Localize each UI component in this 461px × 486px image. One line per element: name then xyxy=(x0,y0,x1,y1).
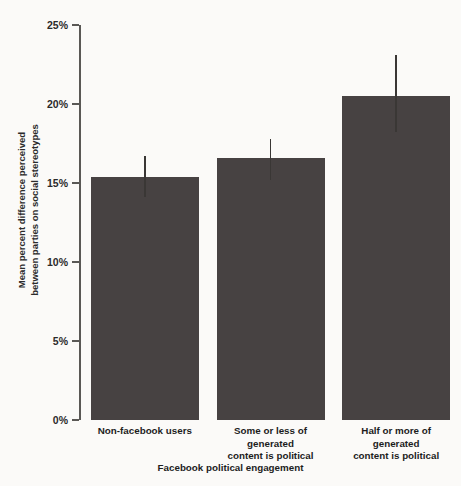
y-axis-tick-label: 25% xyxy=(28,19,68,31)
error-bar xyxy=(395,55,397,132)
plot-area xyxy=(79,25,461,420)
y-axis-title-line2: between parties on social stereotypes xyxy=(28,124,41,296)
y-axis-tick-label: 5% xyxy=(28,335,68,347)
category-label-line: Non-facebook users xyxy=(82,425,208,438)
x-axis-title: Facebook political engagement xyxy=(0,462,461,473)
bar-chart-figure: Mean percent difference perceived betwee… xyxy=(0,0,461,486)
x-axis-category-label: Some or less ofgeneratedcontent is polit… xyxy=(208,425,334,463)
category-label-line: generated xyxy=(208,438,334,451)
y-axis-tick xyxy=(72,103,79,105)
y-axis-tick-label: 20% xyxy=(28,98,68,110)
bar xyxy=(91,177,199,420)
error-bar xyxy=(270,139,272,180)
category-label-line: Half or more of xyxy=(333,425,459,438)
category-label-line: Some or less of xyxy=(208,425,334,438)
y-axis-tick xyxy=(72,24,79,26)
category-label-line: content is political xyxy=(208,450,334,463)
y-axis-tick xyxy=(72,261,79,263)
y-axis-title: Mean percent difference perceived betwee… xyxy=(8,0,48,420)
y-axis-tick-label: 0% xyxy=(28,414,68,426)
y-axis-tick-label: 15% xyxy=(28,177,68,189)
y-axis-tick xyxy=(72,419,79,421)
y-axis-tick-label: 10% xyxy=(28,256,68,268)
y-axis-title-line1: Mean percent difference perceived xyxy=(15,124,28,296)
y-axis-tick xyxy=(72,340,79,342)
category-label-line: content is political xyxy=(333,450,459,463)
bar xyxy=(342,96,450,420)
x-axis-category-label: Half or more ofgeneratedcontent is polit… xyxy=(333,425,459,463)
category-label-line: generated xyxy=(333,438,459,451)
bar xyxy=(217,158,325,420)
x-axis-category-label: Non-facebook users xyxy=(82,425,208,438)
error-bar xyxy=(144,156,146,197)
y-axis-tick xyxy=(72,182,79,184)
